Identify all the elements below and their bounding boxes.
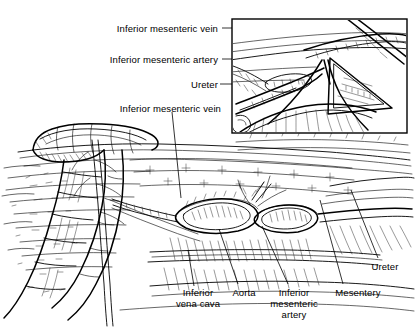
inferior-mesenteric-artery-vessel	[254, 205, 317, 233]
leader-main-imv	[172, 112, 181, 198]
label-inset-inferior-mesenteric-artery: Inferior mesenteric artery	[60, 54, 218, 65]
label-inset-inferior-mesenteric-vein: Inferior mesenteric vein	[60, 23, 218, 34]
inset-panel	[230, 18, 410, 134]
label-inset-ureter: Ureter	[140, 79, 218, 90]
medical-illustration-figure: Inferior mesenteric vein Inferior mesent…	[0, 0, 416, 335]
label-main-ureter: Ureter	[357, 261, 413, 272]
label-main-inferior-mesenteric-vein: Inferior mesenteric vein	[63, 103, 221, 114]
surface-texture-left	[12, 173, 77, 292]
inferior-vena-cava-vessel	[148, 250, 382, 265]
illustration-canvas	[0, 0, 416, 335]
label-main-mesentery: Mesentery	[322, 287, 394, 298]
upper-right-folds	[236, 131, 410, 153]
retroperitoneal-bed	[130, 159, 354, 195]
posterior-bed-hatching	[164, 238, 319, 290]
label-main-inferior-mesenteric-artery: Inferior mesenteric artery	[258, 287, 330, 320]
leader-main-ureter	[351, 190, 378, 258]
mesentery-sheet	[318, 177, 414, 254]
